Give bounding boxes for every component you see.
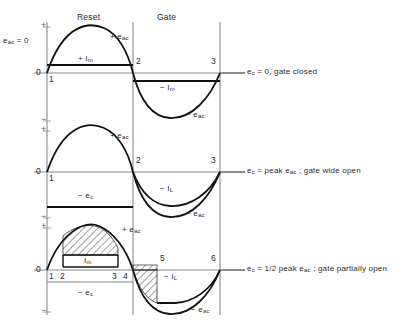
minus-eac-label-bottom: − eac [191,305,210,314]
minus-il-label-bottom: − IL [164,272,177,281]
minus-eac-label-top: − eac [186,110,205,119]
plus-eac-label-top: + eac [110,32,129,41]
curve-minus-il-middle [133,172,220,206]
zero-label-top: 0 [36,67,41,77]
gate-header: Gate [157,12,176,22]
point-label-bottom-1: 1 [49,271,54,281]
zero-label-middle: 0 [36,166,41,176]
waveform-figure: Reset Gate eac = 0 + − + − + − 0 0 0 + e… [0,0,419,324]
reset-header: Reset [77,12,100,22]
minus-im-label-top: − Im [160,83,175,92]
point-label-top-2: 2 [136,56,141,66]
point-label-bottom-3: 3 [112,271,117,281]
hatch-strip-negative-bottom [133,265,157,270]
point-label-middle-1: 1 [49,173,54,183]
axis-plus-sign-middle: + [41,124,46,134]
minus-eac-label-middle: − eac [186,209,205,218]
left-axis-label: eac = 0 [3,36,29,45]
point-label-middle-2: 2 [136,155,141,165]
point-label-bottom-4: 4 [123,271,128,281]
curve-minus-eac-top [133,73,220,118]
annotation-bottom: ec = 1/2 peak eac ; gate partially open [247,264,387,273]
zero-label-bottom: 0 [36,264,41,274]
point-label-bottom-6: 6 [211,253,216,263]
plus-eac-label-bottom: + eac [122,225,141,234]
minus-ec-label-bottom: − ec [78,288,93,297]
plus-im-label-top: + Im [78,54,93,63]
im-label-bottom: Im [84,256,92,265]
axis-plus-sign-top: + [41,20,46,30]
annotation-middle: ec = peak eac ; gate wide open [247,166,361,175]
point-label-bottom-2: 2 [60,271,65,281]
axis-minus-sign-middle: − [41,211,46,221]
plus-eac-label-middle: + eac [110,131,129,140]
annotation-top: ec = 0, gate closed [247,67,317,76]
axis-plus-sign-bottom: + [41,221,46,231]
point-label-middle-3: 3 [211,155,216,165]
axis-minus-sign-bottom: − [41,305,46,315]
axis-minus-sign-top: − [41,114,46,124]
point-label-top-1: 1 [49,74,54,84]
minus-il-label-middle: − IL [160,184,173,193]
minus-ec-label-middle: − ec [78,191,93,200]
point-label-bottom-5: 5 [160,253,165,263]
point-label-top-3: 3 [211,56,216,66]
